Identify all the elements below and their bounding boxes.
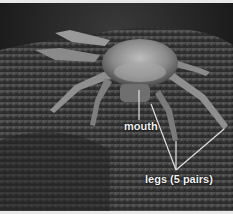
top-border [0, 0, 233, 3]
crab-mouthparts [120, 84, 150, 102]
mouth-label: mouth [124, 121, 158, 132]
soil-shadow [0, 132, 110, 211]
bottom-border [0, 211, 233, 214]
annotated-crab-photo: mouth legs (5 pairs) [0, 0, 233, 214]
legs-label: legs (5 pairs) [145, 174, 213, 185]
